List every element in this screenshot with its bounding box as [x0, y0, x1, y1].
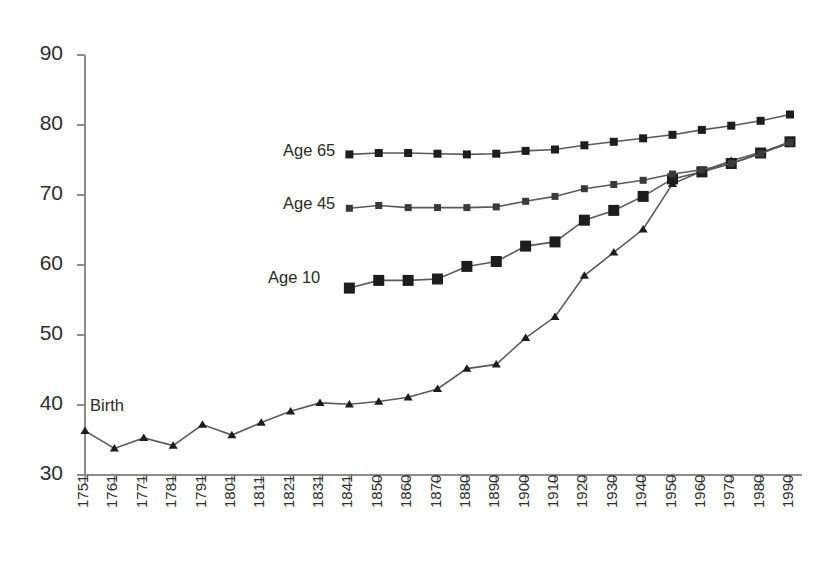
- x-axis-tick-label: 1950: [662, 475, 679, 508]
- data-point-marker: [580, 141, 588, 149]
- y-axis-tick-label: 70: [15, 181, 63, 205]
- data-point-marker: [346, 205, 353, 212]
- data-point-marker: [139, 434, 148, 441]
- data-point-marker: [579, 215, 590, 226]
- series-line: [85, 143, 790, 448]
- data-point-marker: [492, 150, 500, 158]
- data-point-marker: [551, 146, 559, 154]
- x-axis-tick-label: 1940: [632, 475, 649, 508]
- series-line: [349, 115, 790, 155]
- series-label-birth: Birth: [90, 396, 124, 415]
- data-point-marker: [640, 177, 647, 184]
- series-line: [349, 143, 790, 209]
- data-point-marker: [727, 122, 735, 130]
- x-axis-tick-label: 1960: [691, 475, 708, 508]
- data-point-marker: [639, 225, 648, 232]
- x-axis-tick-label: 1920: [573, 475, 590, 508]
- life-expectancy-line-chart: 30405060708090 1751176117711781179118011…: [0, 0, 834, 563]
- data-point-marker: [610, 181, 617, 188]
- x-axis-tick-label: 1781: [162, 475, 179, 508]
- data-point-marker: [522, 198, 529, 205]
- y-axis-tick-label: 60: [15, 251, 63, 275]
- data-point-marker: [80, 427, 89, 434]
- y-axis-tick-label: 90: [15, 41, 63, 65]
- series-birth: [80, 139, 794, 452]
- data-point-marker: [757, 117, 765, 125]
- data-point-marker: [373, 275, 384, 286]
- data-point-marker: [491, 256, 502, 267]
- y-axis-tick-label: 30: [15, 461, 63, 485]
- data-point-marker: [698, 166, 705, 173]
- data-point-marker: [344, 283, 355, 294]
- data-point-marker: [432, 274, 443, 285]
- x-axis-tick-label: 1900: [515, 475, 532, 508]
- x-axis-tick-label: 1761: [103, 475, 120, 508]
- data-point-marker: [581, 185, 588, 192]
- data-point-marker: [550, 236, 561, 247]
- x-axis-tick-label: 1910: [544, 475, 561, 508]
- x-axis-tick-label: 1811: [250, 476, 267, 508]
- y-axis-tick-label: 50: [15, 321, 63, 345]
- data-point-marker: [610, 138, 618, 146]
- data-point-marker: [638, 191, 649, 202]
- x-axis-tick-label: 1880: [456, 475, 473, 508]
- data-point-marker: [375, 202, 382, 209]
- data-point-marker: [463, 204, 470, 211]
- data-point-marker: [405, 204, 412, 211]
- data-point-marker: [698, 126, 706, 134]
- data-point-marker: [198, 420, 207, 427]
- series-label-age-45: Age 45: [283, 194, 335, 213]
- data-point-marker: [728, 160, 735, 167]
- data-point-marker: [375, 149, 383, 157]
- data-point-marker: [522, 147, 530, 155]
- data-point-marker: [786, 111, 794, 119]
- x-axis-tick-label: 1801: [221, 475, 238, 508]
- series-age-65: [345, 111, 794, 159]
- data-point-marker: [434, 204, 441, 211]
- x-axis-tick-label: 1771: [133, 475, 150, 508]
- data-point-marker: [463, 150, 471, 158]
- data-point-marker: [757, 150, 764, 157]
- chart-axes: [77, 55, 802, 484]
- data-point-marker: [461, 261, 472, 272]
- data-point-marker: [433, 385, 442, 392]
- x-axis-tick-label: 1990: [779, 475, 796, 508]
- chart-plot-area: [0, 0, 834, 563]
- data-point-marker: [493, 203, 500, 210]
- x-axis-tick-label: 1751: [74, 475, 91, 508]
- series-age-45: [346, 139, 794, 212]
- x-axis-tick-label: 1870: [427, 475, 444, 508]
- x-axis-tick-label: 1970: [720, 475, 737, 508]
- series-label-age-10: Age 10: [268, 268, 320, 287]
- data-point-marker: [608, 205, 619, 216]
- x-axis-tick-label: 1890: [485, 475, 502, 508]
- data-point-marker: [345, 150, 353, 158]
- x-axis-tick-label: 1980: [750, 475, 767, 508]
- x-axis-tick-label: 1850: [368, 475, 385, 508]
- data-point-marker: [669, 131, 677, 139]
- chart-series-group: [80, 111, 795, 452]
- data-point-marker: [639, 134, 647, 142]
- data-point-marker: [520, 241, 531, 252]
- data-point-marker: [552, 193, 559, 200]
- x-axis-tick-label: 1821: [280, 475, 297, 508]
- y-axis-tick-label: 40: [15, 391, 63, 415]
- y-axis-tick-label: 80: [15, 111, 63, 135]
- series-label-age-65: Age 65: [283, 141, 335, 160]
- series-age-10: [344, 136, 796, 293]
- x-axis-tick-label: 1841: [338, 475, 355, 508]
- data-point-marker: [434, 150, 442, 158]
- data-point-marker: [669, 171, 676, 178]
- x-axis-tick-label: 1860: [397, 475, 414, 508]
- data-point-marker: [404, 149, 412, 157]
- data-point-marker: [787, 139, 794, 146]
- data-point-marker: [403, 275, 414, 286]
- x-axis-tick-label: 1831: [309, 475, 326, 508]
- x-axis-tick-label: 1930: [603, 475, 620, 508]
- x-axis-tick-label: 1791: [192, 475, 209, 508]
